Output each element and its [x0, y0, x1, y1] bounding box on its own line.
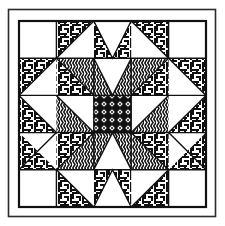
cell-r2c2-center-lattice — [94, 95, 131, 132]
cell-r0c4 — [169, 21, 206, 58]
quilt-diagram-root — [0, 0, 225, 226]
cell-r0c0 — [19, 21, 56, 58]
quilt-block-svg — [0, 0, 225, 226]
cell-r4c0 — [19, 170, 56, 207]
cell-r4c4 — [169, 170, 206, 207]
quilt-block — [19, 21, 206, 207]
